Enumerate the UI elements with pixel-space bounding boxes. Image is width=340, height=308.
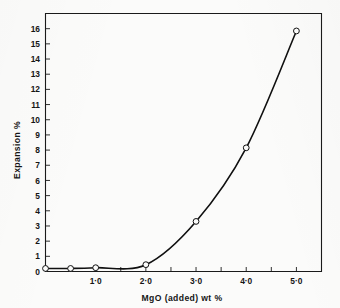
data-point-marker	[68, 266, 74, 272]
data-point-markers	[43, 28, 300, 271]
y-tick-label: 7	[35, 160, 40, 170]
y-tick-label: 0	[35, 267, 40, 277]
data-point-marker	[93, 265, 99, 271]
y-tick-label: 11	[31, 100, 40, 110]
y-axis-title: Expansion %	[12, 121, 22, 179]
plot-frame	[46, 14, 322, 272]
data-point-marker	[243, 145, 249, 151]
y-axis-tick-labels: 012345678910111213141516	[31, 24, 41, 277]
data-point-marker	[143, 262, 149, 268]
y-tick-label: 1	[35, 251, 40, 261]
expansion-vs-mgo-chart: 012345678910111213141516 1·02·03·04·05·0…	[0, 0, 340, 308]
y-axis-tick-marks	[46, 29, 51, 272]
x-tick-label: 5·0	[290, 276, 302, 286]
y-tick-label: 12	[31, 84, 41, 94]
x-axis-tick-labels: 1·02·03·04·05·0	[90, 276, 303, 286]
y-tick-label: 3	[35, 221, 40, 231]
data-point-marker	[193, 219, 199, 225]
data-series-curve	[46, 31, 297, 269]
y-tick-label: 5	[35, 191, 40, 201]
y-tick-label: 16	[31, 24, 41, 34]
x-tick-label: 4·0	[240, 276, 252, 286]
y-tick-label: 9	[35, 130, 40, 140]
y-tick-label: 2	[35, 236, 40, 246]
y-tick-label: 10	[31, 115, 41, 125]
y-tick-label: 8	[35, 145, 40, 155]
chart-canvas: 012345678910111213141516 1·02·03·04·05·0…	[0, 0, 340, 308]
y-tick-label: 15	[31, 39, 41, 49]
y-tick-label: 14	[31, 54, 41, 64]
y-tick-label: 4	[35, 206, 40, 216]
y-tick-label: 6	[35, 176, 40, 186]
x-tick-label: 1·0	[90, 276, 102, 286]
data-point-marker	[43, 266, 49, 272]
x-axis-title: MgO (added) wt %	[142, 293, 223, 303]
data-point-marker	[294, 28, 300, 34]
x-tick-label: 3·0	[190, 276, 202, 286]
y-tick-label: 13	[31, 69, 41, 79]
x-tick-label: 2·0	[140, 276, 152, 286]
figure-page: 012345678910111213141516 1·02·03·04·05·0…	[0, 0, 340, 308]
